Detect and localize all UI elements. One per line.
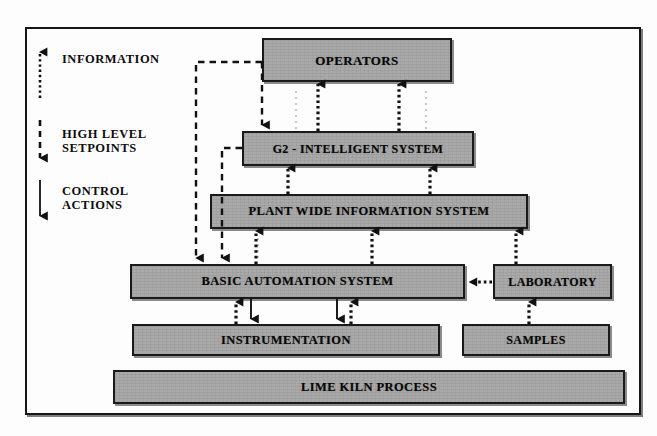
- edge-operators-to-bas: [196, 62, 262, 258]
- edge-g2-to-bas: [222, 148, 242, 258]
- diagram-canvas: INFORMATION HIGH LEVEL SETPOINTS CONTROL…: [0, 0, 657, 436]
- connector-layer: [0, 0, 657, 436]
- edge-ghost-traces: [258, 90, 426, 258]
